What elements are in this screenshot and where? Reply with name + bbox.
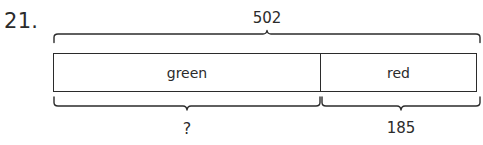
unknown-value-label: ? xyxy=(183,120,192,138)
bar-model-diagram: 21. 502 green red ? 185 xyxy=(0,0,483,145)
known-value-label: 185 xyxy=(387,119,416,137)
